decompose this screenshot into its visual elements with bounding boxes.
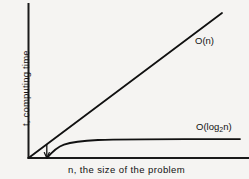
series-label-log-subscript: 2 [219, 126, 223, 133]
series-label-linear: O(n) [195, 36, 214, 46]
series-label-logarithmic: O(log2n) [196, 122, 232, 132]
plot-area [0, 0, 249, 179]
y-axis-label: t, computing time [21, 0, 31, 126]
series-line-linear [29, 13, 223, 158]
series-label-log-suffix: n) [223, 121, 231, 132]
series-curve-logarithmic [47, 139, 240, 158]
chart-figure: t, computing time n, the size of the pro… [0, 0, 249, 179]
x-axis-label: n, the size of the problem [68, 165, 185, 175]
series-label-log-prefix: O(log [196, 121, 219, 132]
